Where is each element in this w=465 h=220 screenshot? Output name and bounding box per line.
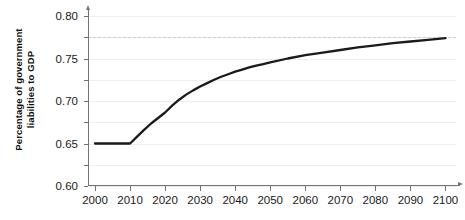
x-axis-tick <box>270 186 271 191</box>
x-axis-tick-label: 2030 <box>187 194 213 206</box>
x-axis-tick-label: 2080 <box>363 194 389 206</box>
x-axis-tick <box>410 186 411 191</box>
y-axis-tick-label: 0.80 <box>56 10 78 22</box>
x-axis-tick-label: 2100 <box>433 194 459 206</box>
y-axis-tick-label: 0.65 <box>56 138 78 150</box>
y-axis-tick-label: 0.70 <box>56 95 78 107</box>
x-axis-tick <box>200 186 201 191</box>
series-layer <box>88 16 456 186</box>
y-axis-title-line-2: liabilities to GDP <box>24 0 36 180</box>
x-axis-tick-label: 2010 <box>117 194 143 206</box>
x-axis-tick-label: 2050 <box>257 194 283 206</box>
x-axis-tick <box>305 186 306 191</box>
x-axis-arrow-icon <box>458 182 463 186</box>
x-axis-tick <box>95 186 96 191</box>
y-axis-title-line-1: Percentage of government <box>13 0 25 180</box>
x-axis-tick-label: 2020 <box>152 194 178 206</box>
x-axis-tick <box>445 186 446 191</box>
x-axis-tick-label: 2060 <box>292 194 318 206</box>
x-axis-tick-label: 2000 <box>82 194 108 206</box>
x-axis-tick <box>130 186 131 191</box>
y-axis-title-container: Percentage of government liabilities to … <box>0 0 46 195</box>
x-axis-tick <box>375 186 376 191</box>
x-axis-tick-label: 2070 <box>328 194 354 206</box>
y-axis-title: Percentage of government liabilities to … <box>13 0 36 180</box>
chart-figure: Percentage of government liabilities to … <box>0 0 465 220</box>
y-axis-tick-label: 0.75 <box>56 53 78 65</box>
line-series-government-liabilities <box>95 38 445 143</box>
x-axis-tick-label: 2090 <box>398 194 424 206</box>
y-axis-tick: 0.40 <box>84 186 88 187</box>
x-axis-tick-label: 2040 <box>222 194 248 206</box>
x-axis-tick <box>340 186 341 191</box>
y-axis-arrow-icon <box>86 5 90 10</box>
x-axis-tick <box>235 186 236 191</box>
y-axis-tick-label: 0.60 <box>56 180 78 192</box>
plot-area: 0.400.450.500.550.600.650.700.750.80 200… <box>88 16 456 186</box>
x-axis-tick <box>165 186 166 191</box>
